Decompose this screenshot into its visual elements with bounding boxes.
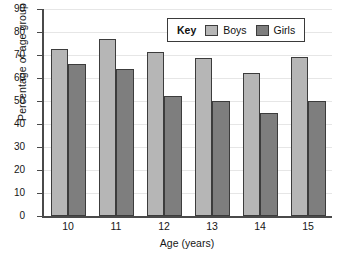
y-tick-label: 60 — [0, 73, 25, 83]
y-tick-label: 70 — [0, 50, 25, 60]
bar-girls-age-13 — [212, 101, 230, 216]
y-tick-label: 90 — [0, 4, 25, 14]
x-tick-label: 14 — [240, 220, 280, 232]
y-tick-label: 40 — [0, 119, 25, 129]
legend-title: Key — [177, 24, 196, 36]
y-tick-label: 50 — [0, 96, 25, 106]
bar-girls-age-12 — [164, 96, 182, 216]
x-tick-label: 12 — [144, 220, 184, 232]
bar-girls-age-11 — [116, 69, 134, 216]
bar-boys-age-13 — [195, 58, 213, 216]
bar-girls-age-15 — [308, 101, 326, 216]
x-axis-title: Age (years) — [42, 237, 332, 249]
x-tick-label: 15 — [288, 220, 328, 232]
y-tick-label: 20 — [0, 165, 25, 175]
bar-boys-age-12 — [147, 52, 165, 216]
legend-label-boys: Boys — [223, 24, 246, 36]
x-tick-label: 13 — [192, 220, 232, 232]
y-tick-label: 0 — [0, 211, 25, 221]
legend: Key Boys Girls — [167, 18, 305, 42]
bar-boys-age-14 — [243, 73, 261, 216]
x-tick-label: 11 — [96, 220, 136, 232]
legend-entry-girls: Girls — [256, 24, 296, 36]
bar-boys-age-11 — [99, 39, 117, 216]
bar-chart: Percentage of age group 0102030405060708… — [0, 0, 343, 259]
x-axis-line — [42, 216, 332, 218]
legend-label-girls: Girls — [274, 24, 296, 36]
legend-swatch-girls-icon — [256, 25, 269, 36]
y-tick-label: 80 — [0, 27, 25, 37]
legend-entry-boys: Boys — [205, 24, 246, 36]
legend-swatch-boys-icon — [205, 25, 218, 36]
bar-girls-age-14 — [260, 113, 278, 217]
bar-boys-age-15 — [291, 57, 309, 216]
y-tick-label: 10 — [0, 188, 25, 198]
bar-group — [51, 9, 86, 216]
x-tick-label: 10 — [48, 220, 88, 232]
bar-group — [99, 9, 134, 216]
y-tick-label: 30 — [0, 142, 25, 152]
bar-boys-age-10 — [51, 49, 69, 216]
bar-girls-age-10 — [68, 64, 86, 216]
